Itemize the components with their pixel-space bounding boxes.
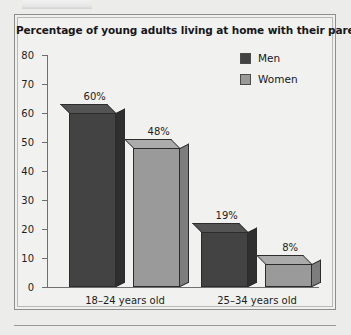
bar-label-women-18-24: 48% — [148, 126, 170, 137]
x-tick-label-18-24: 18–24 years old — [85, 295, 165, 306]
bar-top-face — [192, 223, 248, 232]
bar-front-face — [201, 232, 248, 287]
y-tick-label-80: 80 — [21, 50, 34, 61]
bar-side-face — [248, 228, 257, 287]
bar-men-25-34: 19% — [201, 232, 248, 287]
scan-artifact — [22, 0, 92, 9]
bar-women-25-34: 8% — [265, 264, 312, 287]
y-tick-label-20: 20 — [21, 224, 34, 235]
y-tick-10: 10 — [42, 258, 47, 259]
y-tick-label-10: 10 — [21, 253, 34, 264]
y-axis — [47, 55, 48, 288]
y-tick-70: 70 — [42, 84, 47, 85]
plot-area: 0 10 20 30 40 50 60 70 80 60% — [47, 55, 319, 288]
bar-label-women-25-34: 8% — [282, 242, 298, 253]
bar-top-face — [256, 255, 312, 264]
y-tick-20: 20 — [42, 229, 47, 230]
y-tick-label-30: 30 — [21, 195, 34, 206]
bar-front-face — [133, 148, 180, 287]
y-tick-0: 0 — [42, 287, 47, 288]
y-tick-80: 80 — [42, 55, 47, 56]
y-tick-30: 30 — [42, 200, 47, 201]
page-background: Percentage of young adults living at hom… — [0, 0, 351, 335]
y-tick-60: 60 — [42, 113, 47, 114]
bar-front-face — [69, 113, 116, 287]
bar-label-men-25-34: 19% — [216, 210, 238, 221]
bar-label-men-18-24: 60% — [84, 91, 106, 102]
y-tick-50: 50 — [42, 142, 47, 143]
y-tick-40: 40 — [42, 171, 47, 172]
bar-top-face — [124, 139, 180, 148]
y-tick-label-60: 60 — [21, 108, 34, 119]
footer-divider — [14, 325, 336, 326]
bar-front-face — [265, 264, 312, 287]
x-axis — [47, 287, 319, 288]
bar-women-18-24: 48% — [133, 148, 180, 287]
x-tick-label-25-34: 25–34 years old — [217, 295, 297, 306]
y-tick-label-50: 50 — [21, 137, 34, 148]
y-tick-label-40: 40 — [21, 166, 34, 177]
bar-men-18-24: 60% — [69, 113, 116, 287]
bar-top-face — [60, 104, 116, 113]
y-tick-label-0: 0 — [28, 282, 34, 293]
bar-side-face — [116, 109, 125, 287]
bar-side-face — [312, 260, 321, 287]
y-tick-label-70: 70 — [21, 79, 34, 90]
bar-side-face — [180, 144, 189, 287]
chart-title: Percentage of young adults living at hom… — [16, 24, 336, 36]
